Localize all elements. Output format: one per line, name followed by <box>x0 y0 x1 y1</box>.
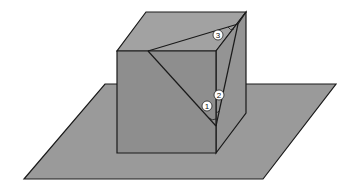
svg-text:3: 3 <box>216 31 221 40</box>
svg-text:2: 2 <box>217 91 222 100</box>
geometry-figure: 1 2 3 <box>0 0 360 192</box>
angle-label-2: 2 <box>214 90 224 100</box>
angle-label-1: 1 <box>202 101 212 111</box>
svg-text:1: 1 <box>205 102 210 111</box>
cube-front-face <box>117 51 216 153</box>
angle-label-3: 3 <box>213 30 223 40</box>
